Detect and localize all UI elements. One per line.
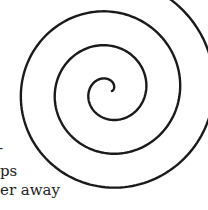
spiral-figure	[0, 0, 208, 210]
text-fragment-dash: -	[0, 140, 3, 157]
spiral-line	[21, 0, 208, 188]
text-fragment-ps: ps	[0, 163, 17, 180]
text-fragment-away: er away	[0, 182, 60, 199]
